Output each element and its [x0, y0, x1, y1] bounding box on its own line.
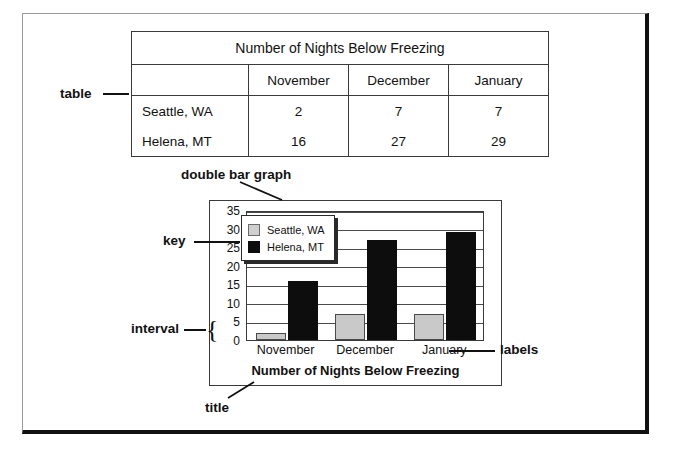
table-cell-seattle-january: 7 [449, 96, 549, 127]
y-tick-label: 35 [227, 205, 240, 217]
legend-label-seattle: Seattle, WA [267, 224, 325, 236]
key: Seattle, WA Helena, MT [241, 215, 335, 261]
leader-table [103, 93, 129, 95]
annotation-key: key [163, 233, 186, 248]
y-tick-label: 30 [227, 224, 240, 236]
leader-key [194, 241, 240, 243]
table-cell-seattle-december: 7 [349, 96, 449, 127]
y-tick-label: 0 [233, 335, 240, 347]
table-title: Number of Nights Below Freezing [132, 32, 549, 65]
y-tick-label: 25 [227, 242, 240, 254]
table-row-label-helena: Helena, MT [132, 126, 249, 157]
table-cell-seattle-november: 2 [249, 96, 349, 127]
table-header-november: November [249, 65, 349, 96]
table-header-row: November December January [132, 65, 549, 96]
bar-helena-january [446, 232, 476, 340]
bar-seattle-january [414, 314, 444, 340]
y-tick-label: 15 [227, 279, 240, 291]
table-row: Seattle, WA 2 7 7 [132, 96, 549, 127]
legend-swatch-seattle [248, 224, 260, 236]
bar-seattle-december [335, 314, 365, 340]
annotation-double-bar-graph: double bar graph [181, 167, 291, 182]
annotation-interval: interval [131, 321, 179, 336]
table-corner-cell [132, 65, 249, 96]
x-tick-label: December [336, 343, 394, 357]
table-row-label-seattle: Seattle, WA [132, 96, 249, 127]
table-title-row: Number of Nights Below Freezing [132, 32, 549, 65]
legend-item-helena: Helena, MT [248, 238, 325, 255]
table-cell-helena-november: 16 [249, 126, 349, 157]
annotation-title: title [205, 400, 229, 415]
legend-item-seattle: Seattle, WA [248, 221, 325, 238]
chart-title: Number of Nights Below Freezing [210, 363, 501, 378]
table-header-december: December [349, 65, 449, 96]
legend-label-helena: Helena, MT [267, 241, 324, 253]
bar-helena-november [288, 281, 318, 340]
interval-brace: { [206, 317, 218, 343]
y-tick-label: 5 [233, 316, 240, 328]
x-axis-labels: NovemberDecemberJanuary [246, 343, 484, 361]
leader-labels [449, 350, 495, 352]
table-header-january: January [449, 65, 549, 96]
leader-title [228, 382, 258, 400]
double-bar-graph: 05101520253035 Seattle, WA Helena, MT No… [209, 200, 502, 386]
y-tick-label: 20 [227, 261, 240, 273]
leader-double-bar-graph [240, 182, 288, 202]
table-cell-helena-december: 27 [349, 126, 449, 157]
bar-helena-december [367, 240, 397, 340]
y-tick-label: 10 [227, 298, 240, 310]
leader-interval [184, 329, 206, 331]
legend-swatch-helena [248, 241, 260, 253]
annotation-table: table [60, 86, 92, 101]
table-row: Helena, MT 16 27 29 [132, 126, 549, 157]
x-tick-label: November [257, 343, 315, 357]
table: Number of Nights Below Freezing November… [131, 31, 549, 157]
worksheet-page: Number of Nights Below Freezing November… [0, 0, 674, 458]
bar-seattle-november [256, 333, 286, 340]
annotation-labels: labels [500, 342, 538, 357]
table-cell-helena-january: 29 [449, 126, 549, 157]
